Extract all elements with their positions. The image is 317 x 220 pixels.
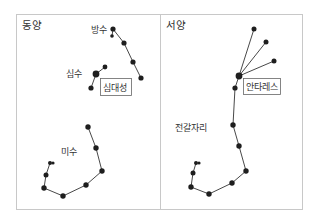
star-icon (88, 85, 93, 90)
star-icon (85, 124, 90, 129)
star-icon (110, 26, 115, 31)
star-icon (41, 185, 46, 190)
star-icon (264, 40, 269, 45)
xin-label: 심수 (66, 69, 82, 79)
star-icon (191, 171, 196, 176)
star-icon (243, 168, 248, 173)
star-icon (272, 59, 277, 64)
star-icon (230, 122, 235, 127)
star-icon (252, 27, 257, 32)
star-icon (121, 40, 126, 45)
star-icon (197, 161, 200, 164)
star-icon (188, 184, 193, 189)
star-icon (51, 161, 54, 164)
fang-mansion-asterism (110, 26, 143, 80)
star-icon (99, 168, 104, 173)
scorpius-constellation (188, 27, 276, 197)
star-icon (229, 180, 234, 185)
wei-label: 미수 (61, 147, 77, 157)
west-panel: 서양 안타레스 전갈자리 (166, 19, 281, 197)
east-panel-title: 동양 (22, 19, 42, 31)
star-icon (103, 65, 108, 70)
heart-star-icon (93, 71, 100, 78)
star-icon (232, 85, 237, 90)
star-icon (138, 75, 143, 80)
wei-mansion-asterism (41, 124, 104, 198)
west-panel-title: 서양 (166, 19, 186, 31)
star-icon (206, 191, 211, 196)
star-icon (194, 161, 198, 165)
fang-label: 방수 (91, 25, 107, 35)
star-icon (60, 193, 65, 198)
star-icon (93, 145, 98, 150)
star-icon (44, 173, 49, 178)
antares-label: 안타레스 (246, 82, 278, 92)
east-panel: 동양 방수 심수 심대성 (22, 19, 144, 199)
star-icon (130, 59, 135, 64)
constellation-comparison-figure: 동양 방수 심수 심대성 (0, 0, 317, 220)
figure-frame (17, 15, 303, 210)
star-icon (110, 34, 114, 38)
antares-star-icon (236, 73, 243, 80)
simdaeseong-label: 심대성 (103, 83, 127, 93)
star-icon (236, 143, 241, 148)
scorpius-label: 전갈자리 (175, 123, 207, 133)
star-icon (83, 182, 88, 187)
